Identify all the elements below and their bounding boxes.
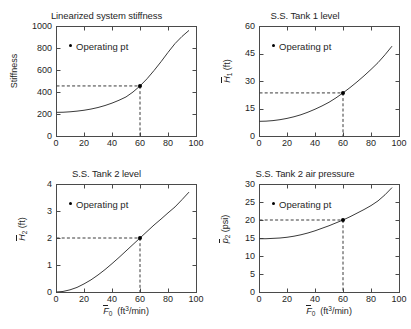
y-tick-label: 30 <box>221 77 255 86</box>
y-tick-label: 5 <box>221 270 255 279</box>
legend-operating-pt: Operating pt <box>272 41 331 52</box>
y-tick-label: 1 <box>18 261 52 270</box>
operating-pt-dot-icon <box>69 202 72 205</box>
x-tick-label: 20 <box>274 139 300 148</box>
x-tick-label: 100 <box>386 139 411 148</box>
x-tick-label: 80 <box>358 295 384 304</box>
y-tick-label: 600 <box>18 66 52 75</box>
legend-label: Operating pt <box>279 199 331 210</box>
x-tick-label: 0 <box>246 139 272 148</box>
x-tick-label: 60 <box>330 295 356 304</box>
y-tick-label: 4 <box>18 180 52 189</box>
x-tick-label: 40 <box>302 139 328 148</box>
x-tick-label: 40 <box>302 295 328 304</box>
panel-tank2-level: S.S. Tank 2 level H2 (ft) F0 (ft3/min) 0… <box>0 166 203 329</box>
x-tick-label: 0 <box>246 295 272 304</box>
operating-pt-dot-icon <box>272 44 275 47</box>
y-tick-label: 800 <box>18 44 52 53</box>
panel-tank1-level: S.S. Tank 1 level H1 (ft) 01530456002040… <box>203 6 405 166</box>
operating-pt-dot-icon <box>272 202 275 205</box>
x-tick-label: 80 <box>155 139 181 148</box>
y-tick-label: 15 <box>221 234 255 243</box>
y-tick-label: 1000 <box>18 22 52 31</box>
x-tick-label: 40 <box>99 139 125 148</box>
y-tick-label: 2 <box>18 234 52 243</box>
x-tick-label: 60 <box>127 139 153 148</box>
x-tick-label: 20 <box>71 295 97 304</box>
x-tick-label: 80 <box>155 295 181 304</box>
y-tick-label: 15 <box>221 104 255 113</box>
operating-point-marker[interactable] <box>341 218 345 222</box>
y-tick-label: 400 <box>18 88 52 97</box>
y-tick-label: 3 <box>18 207 52 216</box>
y-tick-label: 30 <box>221 180 255 189</box>
x-tick-label: 100 <box>386 295 411 304</box>
x-tick-label: 0 <box>43 139 69 148</box>
legend-operating-pt: Operating pt <box>69 41 128 52</box>
x-tick-label: 60 <box>330 139 356 148</box>
y-tick-label: 10 <box>221 252 255 261</box>
x-tick-label: 80 <box>358 139 384 148</box>
data-curve <box>259 188 392 239</box>
legend-operating-pt: Operating pt <box>272 199 331 210</box>
legend-label: Operating pt <box>76 199 128 210</box>
y-tick-label: 60 <box>221 22 255 31</box>
panel-title-tank2-level: S.S. Tank 2 level <box>10 168 203 179</box>
panel-tank2-pressure: S.S. Tank 2 air pressure p2 (psi) F0 (ft… <box>203 166 405 329</box>
x-tick-label: 20 <box>71 139 97 148</box>
legend-label: Operating pt <box>76 41 128 52</box>
operating-pt-dot-icon <box>69 44 72 47</box>
legend-label: Operating pt <box>279 41 331 52</box>
operating-point-marker[interactable] <box>138 84 142 88</box>
y-tick-label: 20 <box>221 216 255 225</box>
axis-label-x-tank2-level: F0 (ft3/min) <box>56 306 196 316</box>
axis-label-x-tank2-pressure: F0 (ft3/min) <box>259 306 399 316</box>
panel-title-tank1-level: S.S. Tank 1 level <box>209 10 401 21</box>
y-tick-label: 200 <box>18 110 52 119</box>
y-tick-label: 45 <box>221 49 255 58</box>
y-tick-label: 25 <box>221 198 255 207</box>
data-curve <box>259 46 392 121</box>
legend-operating-pt: Operating pt <box>69 199 128 210</box>
x-tick-label: 0 <box>43 295 69 304</box>
operating-point-marker[interactable] <box>138 236 142 240</box>
x-tick-label: 60 <box>127 295 153 304</box>
x-tick-label: 20 <box>274 295 300 304</box>
operating-point-marker[interactable] <box>341 91 345 95</box>
panel-title-tank2-pressure: S.S. Tank 2 air pressure <box>209 168 401 179</box>
panel-title-stiffness: Linearized system stiffness <box>10 10 203 21</box>
panel-stiffness: Linearized system stiffness Stiffness 02… <box>0 6 203 166</box>
x-tick-label: 40 <box>99 295 125 304</box>
